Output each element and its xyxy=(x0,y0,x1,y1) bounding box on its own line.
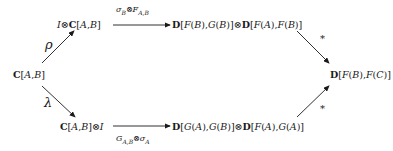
label-rho: ρ xyxy=(45,38,53,51)
node-left: CC[A,B][A,B] xyxy=(13,70,45,80)
label-bottom-arrow: GA,B⊗σA G_{A,B}⊗σ_A xyxy=(116,135,150,145)
label-lambda: λ xyxy=(44,96,52,109)
node-top-right: D[F(B),G(B)]⊗D[F(A),F(B)] D[F(B),G(B)]⊗D… xyxy=(172,20,302,30)
node-right: D[F(B),F(C)] D[F(B),F(C)] xyxy=(330,70,391,80)
label-star-top: * xyxy=(320,34,325,44)
node-bottom-left: C[A,B]⊗I C[A,B]⊗I xyxy=(60,122,104,132)
node-top-left: I⊗C[A,B] I⊗C[A,B] xyxy=(57,20,101,30)
label-top-arrow: σB⊗FA,B σ_B⊗F_{A,B} xyxy=(116,6,149,16)
node-bottom-right: D[G(A),G(B)]⊗D[F(A),G(A)] D[G(A),G(B)]⊗D… xyxy=(172,122,304,132)
label-star-bottom: * xyxy=(320,104,325,114)
